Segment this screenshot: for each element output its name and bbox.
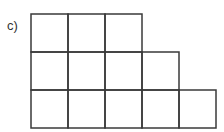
staircase-grid-diagram (0, 0, 224, 132)
grid-cell (105, 90, 142, 128)
grid-cell (105, 52, 142, 90)
grid-cell (31, 52, 68, 90)
grid-cell (68, 14, 105, 52)
grid-cell (105, 14, 142, 52)
grid-cell (142, 90, 179, 128)
grid-cell (31, 14, 68, 52)
grid-cell (68, 52, 105, 90)
grid-cell (142, 52, 179, 90)
grid-cell (68, 90, 105, 128)
grid-cell (179, 90, 216, 128)
grid-cell (31, 90, 68, 128)
